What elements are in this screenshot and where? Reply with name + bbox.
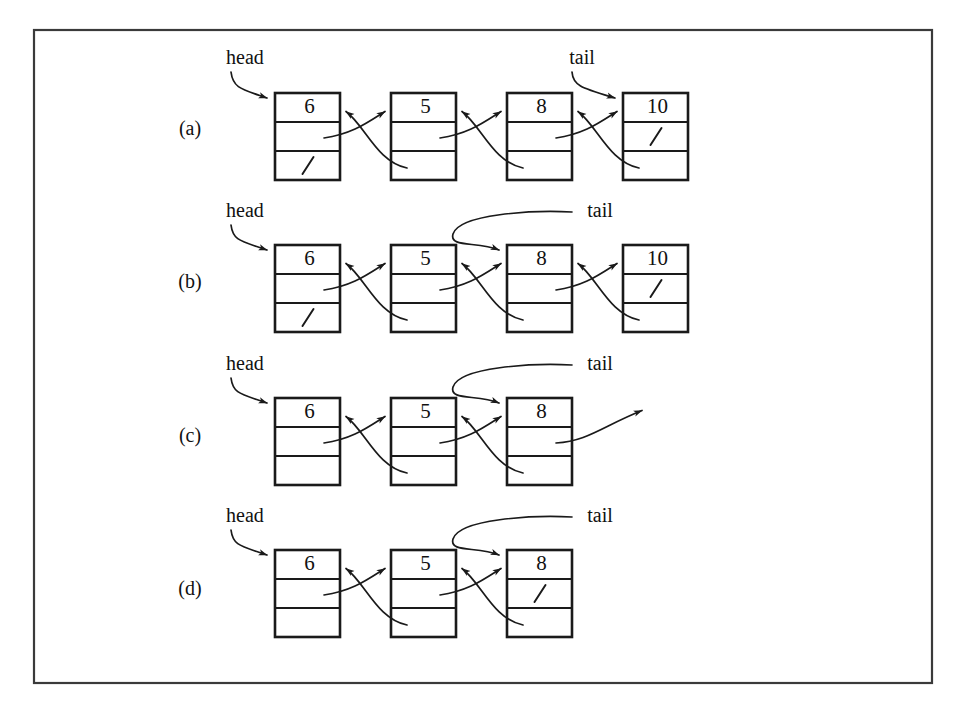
linked-list-figure: (a)65810headtail(b)65810headtail(c)658he… — [0, 0, 961, 710]
tail-pointer-label: tail — [587, 352, 613, 374]
node-value: 5 — [420, 94, 431, 118]
row-label: (c) — [179, 424, 201, 447]
head-pointer-label: head — [226, 46, 264, 68]
head-pointer-label: head — [226, 199, 264, 221]
row-label: (b) — [178, 270, 201, 293]
node-value: 10 — [647, 94, 668, 118]
figure-border — [34, 30, 932, 683]
figure-frame — [34, 30, 932, 683]
node-value: 5 — [420, 399, 431, 423]
tail-pointer-label: tail — [587, 504, 613, 526]
node-value: 6 — [304, 551, 315, 575]
tail-pointer-label: tail — [569, 46, 595, 68]
node-value: 5 — [420, 551, 431, 575]
node-value: 6 — [304, 94, 315, 118]
node-value: 8 — [536, 551, 547, 575]
node-value: 8 — [536, 246, 547, 270]
node-value: 10 — [647, 246, 668, 270]
node-value: 6 — [304, 399, 315, 423]
tail-pointer-label: tail — [587, 199, 613, 221]
row-label: (d) — [178, 577, 201, 600]
node-value: 8 — [536, 94, 547, 118]
node-value: 5 — [420, 246, 431, 270]
node-value: 6 — [304, 246, 315, 270]
row-label: (a) — [179, 117, 201, 140]
node-value: 8 — [536, 399, 547, 423]
figure-root: (a)65810headtail(b)65810headtail(c)658he… — [0, 0, 961, 710]
head-pointer-label: head — [226, 352, 264, 374]
head-pointer-label: head — [226, 504, 264, 526]
